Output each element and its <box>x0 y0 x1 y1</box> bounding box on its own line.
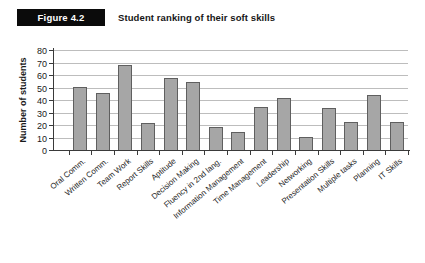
figure-page: Figure 4.2 Student ranking of their soft… <box>0 0 425 263</box>
y-tick-label: 80 <box>37 46 47 56</box>
y-tick-label: 60 <box>37 71 47 81</box>
y-tick-label: 20 <box>37 121 47 131</box>
bar <box>322 109 335 150</box>
bar <box>164 79 177 150</box>
bar <box>119 65 132 150</box>
bar <box>74 88 87 151</box>
y-axis-title: Number of students <box>18 57 28 142</box>
bar <box>141 124 154 150</box>
y-tick-label: 40 <box>37 96 47 106</box>
y-tick-label: 10 <box>37 134 47 144</box>
bar <box>96 94 109 150</box>
bar <box>209 128 222 151</box>
bar <box>277 99 290 150</box>
bar <box>255 108 268 151</box>
bar <box>232 133 245 151</box>
bar <box>300 138 313 151</box>
y-tick-label: 0 <box>42 146 47 156</box>
bar <box>390 123 403 151</box>
y-tick-label: 70 <box>37 59 47 69</box>
bar <box>187 83 200 151</box>
soft-skills-bar-chart: 01020304050607080Oral Comm.Written Comm.… <box>0 0 425 263</box>
bar <box>345 123 358 151</box>
y-tick-label: 30 <box>37 109 47 119</box>
bar <box>368 95 381 150</box>
x-tick-label: IT Skills <box>377 157 404 182</box>
y-tick-label: 50 <box>37 84 47 94</box>
